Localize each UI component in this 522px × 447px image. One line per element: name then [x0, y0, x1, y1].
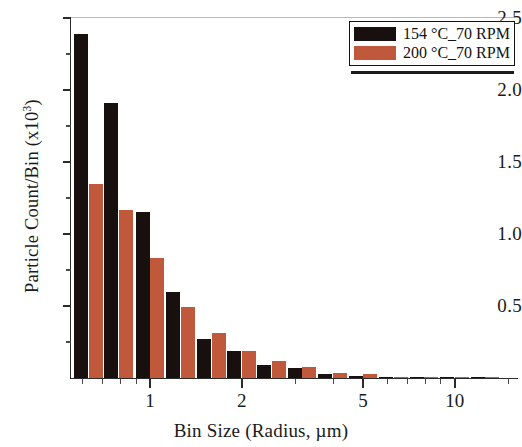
bar-series-0-bin-5	[227, 351, 241, 378]
x-tick-label-0: 1	[128, 391, 172, 411]
x-minor-tick-5	[333, 379, 334, 384]
y-tick-label-2: 1.5	[468, 152, 522, 171]
bar-series-1-bin-11	[424, 377, 438, 378]
bar-series-0-bin-0	[74, 34, 88, 378]
chart-legend: 154 °C_70 RPM 200 °C_70 RPM	[349, 21, 515, 66]
bar-series-1-bin-1	[119, 210, 133, 378]
y-minor-tick-3	[66, 125, 71, 126]
bar-series-0-bin-2	[136, 212, 150, 378]
y-axis-title-text: Particle Count/Bin (x10	[22, 112, 42, 293]
bar-series-0-bin-4	[197, 339, 211, 378]
bar-series-0-bin-3	[166, 292, 180, 378]
x-minor-tick-0	[82, 379, 83, 384]
bar-series-0-bin-9	[349, 376, 363, 378]
legend-item: 200 °C_70 RPM	[354, 43, 510, 62]
x-axis-title: Bin Size (Radius, µm)	[0, 420, 522, 442]
bar-series-1-bin-4	[212, 333, 226, 378]
bar-series-1-bin-10	[394, 377, 408, 378]
y-tick-label-0: 0.5	[468, 296, 522, 315]
bar-series-0-bin-10	[379, 377, 393, 378]
y-minor-tick-4	[66, 53, 71, 54]
bar-series-0-bin-1	[104, 103, 118, 378]
x-minor-tick-3	[136, 379, 137, 384]
bar-series-1-bin-7	[302, 367, 316, 378]
legend-item: 154 °C_70 RPM	[354, 24, 510, 43]
y-tick-mark-0	[63, 305, 71, 307]
legend-swatch-series-1	[354, 46, 396, 60]
bar-series-1-bin-6	[272, 361, 286, 378]
x-minor-tick-1	[102, 379, 103, 384]
bar-series-0-bin-6	[257, 365, 271, 378]
y-minor-tick-1	[66, 269, 71, 270]
x-minor-tick-6	[387, 379, 388, 384]
bar-series-1-bin-2	[150, 258, 164, 378]
y-tick-label-1: 1.0	[468, 224, 522, 243]
x-minor-tick-10	[508, 379, 509, 384]
y-tick-mark-1	[63, 233, 71, 235]
y-axis-title: Particle Count/Bin (x103)	[21, 31, 43, 361]
x-tick-mark-0	[149, 379, 151, 388]
bar-series-1-bin-9	[363, 374, 377, 378]
bar-series-1-bin-8	[333, 373, 347, 378]
legend-label-series-0: 154 °C_70 RPM	[403, 25, 510, 42]
bar-series-0-bin-8	[318, 374, 332, 378]
bar-series-1-bin-5	[242, 351, 256, 378]
bar-series-0-bin-12	[440, 377, 454, 378]
x-tick-label-1: 2	[220, 391, 264, 411]
y-tick-mark-3	[63, 89, 71, 91]
bar-series-1-bin-3	[181, 307, 195, 378]
y-minor-tick-2	[66, 197, 71, 198]
bar-series-0-bin-7	[288, 368, 302, 378]
bar-series-1-bin-0	[89, 184, 103, 378]
x-minor-tick-9	[440, 379, 441, 384]
bar-series-1-bin-12	[455, 377, 469, 378]
x-tick-mark-2	[362, 379, 364, 388]
y-axis-title-close: )	[22, 99, 42, 105]
bar-series-1-bin-13	[485, 377, 499, 378]
y-tick-mark-4	[63, 17, 71, 19]
y-tick-mark-2	[63, 161, 71, 163]
x-minor-tick-2	[120, 379, 121, 384]
chart-figure: 0.51.01.52.02.5 12510 Particle Count/Bin…	[0, 0, 522, 447]
y-tick-label-3: 2.0	[468, 80, 522, 99]
x-minor-tick-7	[407, 379, 408, 384]
x-minor-tick-4	[295, 379, 296, 384]
x-tick-label-3: 10	[433, 391, 477, 411]
legend-label-series-1: 200 °C_70 RPM	[403, 44, 510, 61]
x-tick-mark-3	[454, 379, 456, 388]
y-minor-tick-0	[66, 341, 71, 342]
bar-series-0-bin-13	[471, 377, 485, 378]
y-axis-title-exponent: 3	[21, 106, 33, 112]
x-minor-tick-8	[425, 379, 426, 384]
bar-series-0-bin-11	[410, 377, 424, 378]
x-tick-label-2: 5	[341, 391, 385, 411]
x-tick-mark-1	[241, 379, 243, 388]
legend-bottom-rule	[351, 71, 514, 74]
legend-swatch-series-0	[354, 27, 396, 41]
